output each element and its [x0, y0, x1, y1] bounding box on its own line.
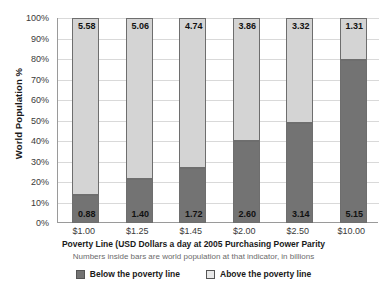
y-axis-tick-label: 50% [31, 116, 49, 126]
bar-value-label-below: 1.40 [128, 209, 153, 220]
bar-segment-above[interactable]: 3.32 [286, 18, 313, 123]
bar-segment-below[interactable]: 1.40 [126, 179, 153, 223]
bar-value-label-above: 5.06 [128, 21, 153, 32]
bar-segment-above[interactable]: 5.58 [72, 18, 99, 195]
x-axis-tick-label: $1.45 [164, 226, 218, 236]
bar-segment-above[interactable]: 1.31 [340, 18, 367, 60]
y-axis-tick-labels: 0%10%20%30%40%50%60%70%80%90%100% [0, 18, 53, 223]
legend-label-above: Above the poverty line [220, 269, 311, 279]
y-axis-tick-label: 30% [31, 157, 49, 167]
bar-group[interactable]: 5.580.88 [72, 18, 99, 223]
bar-group[interactable]: 3.323.14 [286, 18, 313, 223]
x-axis-tick-labels: $1.00$1.25$1.45$2.00$2.50$10.00 [57, 226, 378, 240]
bar-value-label-below: 0.88 [74, 209, 99, 220]
bar-value-label-below: 1.72 [181, 209, 206, 220]
plot-area: 5.580.885.061.404.741.723.862.603.323.14… [57, 18, 378, 223]
y-axis-tick-label: 40% [31, 136, 49, 146]
y-axis-tick-label: 70% [31, 75, 49, 85]
bar-segment-below[interactable]: 2.60 [233, 141, 260, 223]
bar-segment-above[interactable]: 3.86 [233, 18, 260, 141]
bar-value-label-above: 3.32 [288, 21, 313, 32]
bar-value-label-above: 1.31 [342, 21, 367, 32]
legend-swatch-below-icon [76, 270, 85, 279]
bar-value-label-below: 2.60 [235, 209, 260, 220]
bar-segment-below[interactable]: 0.88 [72, 195, 99, 223]
bar-group[interactable]: 4.741.72 [179, 18, 206, 223]
bar-segment-below[interactable]: 1.72 [179, 168, 206, 223]
x-axis-tick-label: $2.50 [271, 226, 325, 236]
bar-value-label-above: 4.74 [181, 21, 206, 32]
y-axis-tick-label: 80% [31, 54, 49, 64]
legend-item-below[interactable]: Below the poverty line [76, 269, 180, 279]
y-axis-tick-label: 0% [36, 218, 49, 228]
bar-series-container: 5.580.885.061.404.741.723.862.603.323.14… [58, 18, 379, 223]
stacked-bar-chart: World Population % 0%10%20%30%40%50%60%7… [0, 0, 387, 293]
chart-legend: Below the poverty line Above the poverty… [0, 269, 387, 279]
legend-item-above[interactable]: Above the poverty line [206, 269, 311, 279]
bar-value-label-above: 5.58 [74, 21, 99, 32]
x-axis-title: Poverty Line (USD Dollars a day at 2005 … [0, 239, 387, 249]
y-axis-tick-label: 90% [31, 34, 49, 44]
bar-value-label-below: 5.15 [342, 209, 367, 220]
x-axis-tick-label: $2.00 [217, 226, 271, 236]
y-axis-tick-label: 10% [31, 198, 49, 208]
chart-subtitle-note: Numbers inside bars are world population… [0, 252, 387, 261]
bar-group[interactable]: 3.862.60 [233, 18, 260, 223]
x-axis-tick-label: $10.00 [324, 226, 378, 236]
y-axis-tick-label: 20% [31, 177, 49, 187]
x-axis-tick-label: $1.25 [110, 226, 164, 236]
bar-group[interactable]: 5.061.40 [126, 18, 153, 223]
y-axis-tick-label: 100% [26, 13, 49, 23]
bar-segment-below[interactable]: 5.15 [340, 60, 367, 223]
bar-segment-below[interactable]: 3.14 [286, 123, 313, 223]
legend-swatch-above-icon [206, 270, 215, 279]
bar-segment-above[interactable]: 5.06 [126, 18, 153, 179]
bar-value-label-above: 3.86 [235, 21, 260, 32]
bar-group[interactable]: 1.315.15 [340, 18, 367, 223]
x-axis-tick-label: $1.00 [57, 226, 111, 236]
bar-segment-above[interactable]: 4.74 [179, 18, 206, 168]
legend-label-below: Below the poverty line [90, 269, 180, 279]
bar-value-label-below: 3.14 [288, 209, 313, 220]
y-axis-tick-label: 60% [31, 95, 49, 105]
